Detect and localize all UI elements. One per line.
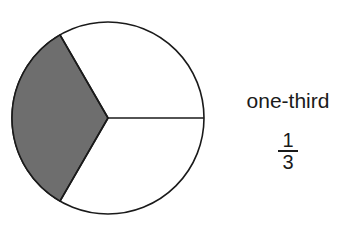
numerator: 1 [272, 131, 304, 150]
fraction-circle [0, 0, 220, 232]
fraction: 1 3 [272, 131, 304, 173]
fraction-word-label: one-third [232, 89, 344, 113]
denominator: 3 [272, 152, 304, 173]
